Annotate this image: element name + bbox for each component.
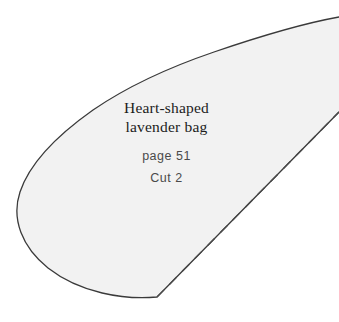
pattern-sheet: Heart-shaped lavender bag page 51 Cut 2	[0, 0, 339, 322]
pattern-piece-fill	[17, 17, 339, 298]
pattern-diagram	[0, 0, 339, 322]
